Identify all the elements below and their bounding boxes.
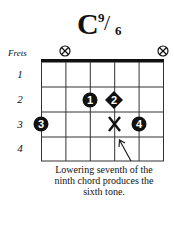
svg-text:3: 3 — [38, 118, 44, 130]
muted-string-1-icon — [60, 46, 70, 56]
annotation-text: Lowering seventh of the ninth chord prod… — [40, 164, 168, 197]
annotation-line-3: sixth tone. — [40, 186, 168, 197]
finger-1-dot: 1 — [83, 93, 98, 108]
svg-text:4: 4 — [136, 118, 143, 130]
svg-text:2: 2 — [111, 94, 117, 106]
muted-string-6-icon — [158, 46, 168, 56]
svg-text:1: 1 — [87, 94, 93, 106]
nut-bar — [41, 59, 164, 63]
arrow-icon — [119, 140, 131, 161]
annotation-line-2: ninth chord produces the — [40, 175, 168, 186]
finger-3-dot: 3 — [34, 117, 49, 132]
finger-2-diamond: 2 — [105, 91, 123, 109]
finger-4-dot: 4 — [132, 117, 147, 132]
annotation-line-1: Lowering seventh of the — [40, 164, 168, 175]
